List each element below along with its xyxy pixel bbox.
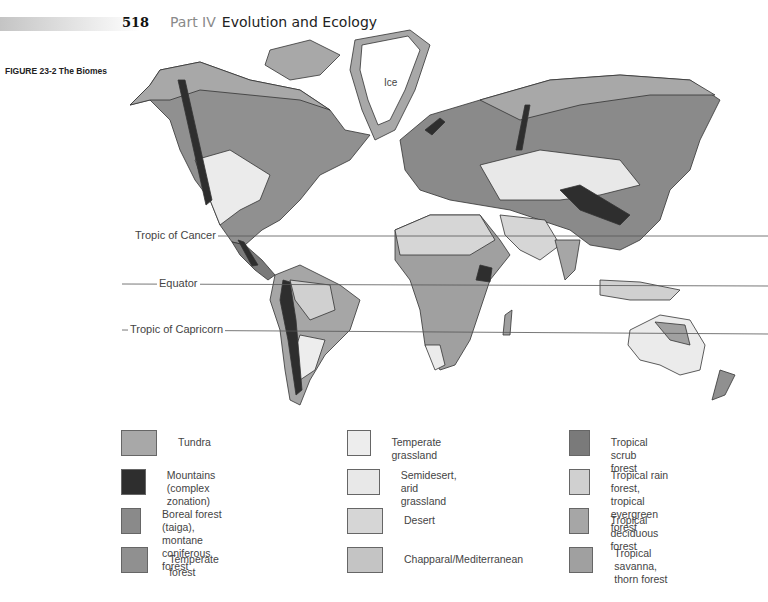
legend-item-semidesert: Semidesert, arid grassland bbox=[347, 469, 460, 508]
legend-swatch bbox=[347, 469, 380, 495]
legend-label: Tropical savanna, thorn forest bbox=[614, 547, 668, 586]
legend-label: Temperate forest bbox=[169, 553, 227, 579]
biome-world-map bbox=[0, 0, 768, 420]
legend-swatch bbox=[569, 547, 593, 573]
equator-label: Equator bbox=[157, 277, 200, 289]
legend-swatch bbox=[347, 430, 371, 456]
tropic-of-cancer-label: Tropic of Cancer bbox=[133, 229, 218, 241]
legend-swatch bbox=[569, 469, 590, 495]
legend-item-temperate-grassland: Temperate grassland bbox=[347, 430, 454, 462]
legend-item-mountains: Mountains (complex zonation) bbox=[121, 469, 226, 508]
ice-label: Ice bbox=[382, 77, 399, 88]
legend-swatch bbox=[121, 430, 157, 456]
legend-label: Mountains (complex zonation) bbox=[167, 469, 227, 508]
legend-swatch bbox=[347, 508, 383, 534]
legend-label: Chapparal/Mediterranean bbox=[404, 553, 523, 566]
legend-label: Desert bbox=[404, 514, 435, 527]
legend-swatch bbox=[569, 430, 590, 456]
legend-swatch bbox=[347, 547, 383, 573]
legend-item-temperate-forest: Temperate forest bbox=[121, 547, 228, 579]
legend-label: Tundra bbox=[178, 436, 211, 449]
legend-swatch bbox=[121, 508, 141, 534]
legend-label: Semidesert, arid grassland bbox=[401, 469, 460, 508]
legend-item-tropical-savanna: Tropical savanna, thorn forest bbox=[569, 547, 669, 586]
legend-item-desert: Desert bbox=[347, 508, 435, 534]
legend-label: Temperate grassland bbox=[392, 436, 454, 462]
legend-item-chapparal: Chapparal/Mediterranean bbox=[347, 547, 523, 573]
legend-swatch bbox=[569, 508, 589, 534]
legend-swatch bbox=[121, 547, 148, 573]
legend-swatch bbox=[121, 469, 146, 495]
tropic-of-capricorn-label: Tropic of Capricorn bbox=[128, 323, 225, 335]
legend-item-tundra: Tundra bbox=[121, 430, 211, 456]
